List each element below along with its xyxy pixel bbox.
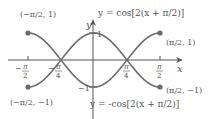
endpoint-bottom-right (157, 84, 162, 89)
svg-text:4: 4 (124, 72, 129, 80)
y-axis-label: y (85, 19, 92, 30)
endpoint-top-left (25, 30, 30, 35)
x-axis-label: x (177, 63, 183, 74)
endpoint-top-right (157, 30, 162, 35)
svg-text:2: 2 (23, 72, 27, 80)
svg-text:π: π (156, 63, 162, 71)
svg-text:π: π (123, 63, 129, 71)
tick-label-1: 1 (97, 30, 102, 39)
tick-label-neg-pi-2: − π 2 (15, 63, 29, 80)
annotation-top-left: (−π/2, 1) (20, 10, 56, 19)
equation-cos: y = cos[2(x + π/2)] (97, 8, 184, 18)
tick-label-neg-pi-4: − π 4 (48, 63, 62, 80)
tick-label-neg1: −1 (78, 84, 90, 93)
annotation-bottom-left: (−π/2, −1) (10, 98, 53, 107)
tick-label-pi-2: π 2 (156, 63, 163, 80)
tick-label-pi-4: π 4 (123, 63, 130, 80)
svg-text:−: − (48, 64, 55, 73)
annotation-top-right: (π/2, 1) (166, 38, 195, 47)
svg-text:2: 2 (157, 72, 161, 80)
endpoint-bottom-left (25, 84, 30, 89)
svg-text:π: π (55, 63, 61, 71)
svg-text:−: − (15, 64, 22, 73)
graph: y x 1 −1 − π 2 − π 4 π 4 π 2 (−π/2, 1) (… (0, 0, 212, 119)
annotation-bottom-right: (π/2, −1) (166, 86, 202, 95)
svg-text:π: π (22, 63, 28, 71)
svg-text:4: 4 (56, 72, 61, 80)
equation-neg-cos: y = -cos[2(x + π/2)] (89, 99, 179, 109)
